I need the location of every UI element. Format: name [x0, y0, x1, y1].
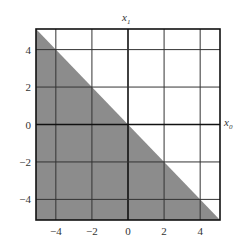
y-tick-label: 0: [26, 119, 32, 131]
x-tick-label: 4: [197, 225, 203, 237]
chart: −4−2024−4−2024 x1 x0: [0, 0, 244, 244]
y-tick-label: 4: [26, 44, 32, 56]
x-tick-label: −4: [50, 225, 62, 237]
x-tick-label: −2: [86, 225, 98, 237]
x-tick-label: 0: [125, 225, 131, 237]
x-tick-label: 2: [161, 225, 167, 237]
y-tick-label: −2: [19, 156, 31, 168]
x-axis-label: x0: [223, 116, 233, 131]
y-tick-label: −4: [19, 193, 31, 205]
plot-area: [36, 29, 220, 220]
y-tick-label: 2: [26, 81, 32, 93]
y-axis-label: x1: [121, 11, 130, 26]
